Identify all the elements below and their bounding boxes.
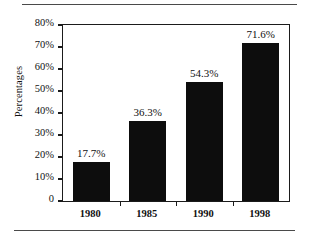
y-tick-label: 80%: [35, 17, 54, 28]
y-tick-mark: [58, 200, 63, 201]
bar-value-label: 71.6%: [247, 28, 275, 40]
x-axis-label: 1998: [249, 208, 270, 219]
y-tick-label: 60%: [35, 61, 54, 72]
bar: 36.3%: [129, 121, 166, 201]
y-tick-mark: [58, 68, 63, 69]
bar-value-label: 54.3%: [190, 67, 218, 79]
x-axis-label: 1980: [80, 208, 101, 219]
plot-area: 010%20%30%40%50%60%70%80% 17.7%36.3%54.3…: [62, 24, 290, 202]
y-tick-mark: [58, 24, 63, 25]
x-axis-label: 1990: [193, 208, 214, 219]
y-tick-mark: [58, 90, 63, 91]
y-tick-mark: [58, 178, 63, 179]
x-tick-mark: [176, 201, 177, 206]
chart-figure: Percentages 010%20%30%40%50%60%70%80% 17…: [0, 0, 313, 242]
bar-value-label: 17.7%: [77, 147, 105, 159]
bar: 71.6%: [242, 43, 279, 201]
y-tick-mark: [58, 134, 63, 135]
y-tick-mark: [58, 112, 63, 113]
bar: 17.7%: [73, 162, 110, 201]
x-tick-mark: [120, 201, 121, 206]
y-tick-label: 30%: [35, 127, 54, 138]
top-horizontal-rule: [22, 4, 297, 5]
y-tick-label: 70%: [35, 39, 54, 50]
y-tick-label: 20%: [35, 149, 54, 160]
y-tick-label: 40%: [35, 105, 54, 116]
y-axis-title: Percentages: [13, 52, 24, 132]
bottom-horizontal-rule: [14, 230, 295, 231]
bar: 54.3%: [186, 82, 223, 201]
y-tick-mark: [58, 156, 63, 157]
y-tick-label: 10%: [35, 171, 54, 182]
y-tick-mark: [58, 46, 63, 47]
bar-value-label: 36.3%: [134, 106, 162, 118]
y-tick-label: 50%: [35, 83, 54, 94]
y-tick-label: 0: [49, 193, 54, 204]
x-tick-mark: [233, 201, 234, 206]
x-axis-label: 1985: [136, 208, 157, 219]
